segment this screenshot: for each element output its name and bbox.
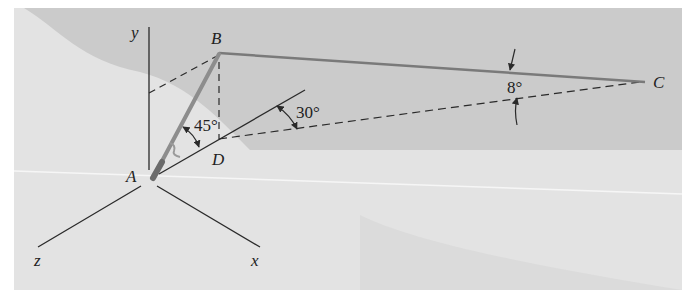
background: [14, 8, 682, 290]
angle-45-label: 45°: [194, 116, 218, 135]
angle-30-label: 30°: [296, 103, 320, 122]
z-axis-label: z: [33, 251, 41, 270]
point-b-label: B: [211, 29, 222, 48]
point-d-label: D: [211, 150, 225, 169]
x-axis-label: x: [250, 251, 259, 270]
angle-8-label: 8°: [507, 78, 522, 97]
point-c-label: C: [653, 73, 665, 92]
diagram-canvas: y z x A B C D 45° 30° 8°: [0, 0, 696, 300]
y-axis-label: y: [129, 23, 139, 42]
point-a-label: A: [125, 167, 137, 186]
